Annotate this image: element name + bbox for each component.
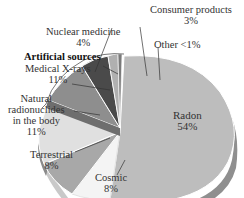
consumer-products-name: Consumer products [150,4,232,15]
other-text: Other <1% [154,39,200,50]
medical-x-rays-value: 11% [25,74,91,85]
terrestrial-name: Terrestrial [30,149,73,160]
label-artificial-sources: Artificial sources [24,51,101,62]
natural-line1: Natural [8,93,65,104]
natural-line2: radionuclides [8,104,65,115]
label-consumer-products: Consumer products 3% [150,4,232,26]
consumer-products-value: 3% [150,15,232,26]
nuclear-medicine-name: Nuclear medicine [46,26,120,37]
cosmic-value: 8% [95,183,127,194]
label-nuclear-medicine: Nuclear medicine 4% [46,26,120,48]
label-other: Other <1% [154,39,200,50]
natural-value: 11% [8,126,65,137]
nuclear-medicine-value: 4% [46,37,120,48]
label-cosmic: Cosmic 8% [95,172,127,194]
terrestrial-value: 8% [30,160,73,171]
label-terrestrial: Terrestrial 8% [30,149,73,171]
label-natural-radionuclides: Natural radionuclides in the body 11% [8,93,65,137]
label-medical-x-rays: Medical X-rays 11% [25,63,91,85]
radon-value: 54% [173,121,202,132]
medical-x-rays-name: Medical X-rays [25,63,91,74]
cosmic-name: Cosmic [95,172,127,183]
artificial-sources-text: Artificial sources [24,51,101,62]
label-radon: Radon 54% [173,110,202,132]
natural-line3: in the body [8,115,65,126]
